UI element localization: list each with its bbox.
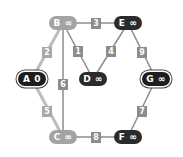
node-B[interactable]: B ∞	[49, 16, 77, 30]
node-F[interactable]: F ∞	[114, 130, 142, 144]
edge-weight-B-D: 1	[73, 46, 83, 57]
node-C[interactable]: C ∞	[49, 130, 77, 144]
node-G[interactable]: G ∞	[142, 72, 170, 86]
edge-weight-E-D: 4	[106, 46, 116, 57]
node-E[interactable]: E ∞	[114, 16, 142, 30]
edge-weight-C-F: 8	[91, 132, 101, 143]
edge-weight-B-E: 3	[91, 18, 101, 29]
edge-weight-B-C: 6	[58, 79, 68, 90]
edge-weight-G-F: 7	[137, 106, 147, 117]
edge-weight-E-G: 9	[137, 47, 147, 58]
node-D[interactable]: D ∞	[79, 72, 107, 86]
edge-weight-A-C: 5	[42, 106, 52, 117]
node-A[interactable]: A 0	[18, 72, 46, 86]
edge-weight-A-B: 2	[42, 47, 52, 58]
